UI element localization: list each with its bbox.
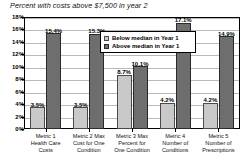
bar-value-label: 8.7% — [117, 69, 131, 75]
category-label-line: Metric 3 Max — [111, 133, 152, 140]
bar-value-label: 10.1% — [131, 61, 148, 67]
x-axis-tick-mark — [89, 129, 90, 132]
bar-above-median: 15.4% — [46, 33, 61, 129]
x-axis-category-labels: Metric 1Health CareCostsMetric 2 MaxCost… — [24, 133, 240, 155]
bar-value-label: 17.1% — [175, 17, 192, 23]
category-label-line: Number of — [155, 140, 196, 147]
bar-value-label: 3.5% — [74, 102, 88, 108]
bar-above-median: 14.9% — [219, 36, 234, 129]
bar-value-label: 4.2% — [160, 97, 174, 103]
category-label-line: Metric 5 — [198, 133, 239, 140]
bar-below-median: 3.5% — [30, 107, 45, 129]
bar-value-label: 4.2% — [204, 97, 218, 103]
bar-below-median: 4.2% — [160, 103, 175, 129]
x-axis-tick-mark — [218, 129, 219, 132]
legend-item-below: Below median in Year 1 — [104, 34, 192, 42]
legend-item-above: Above median in Year 1 — [104, 42, 192, 50]
x-axis-category-label: Metric 2 MaxCost for OneCondition — [67, 133, 110, 155]
bar-below-median: 3.5% — [73, 107, 88, 129]
bar-above-median: 10.1% — [133, 66, 148, 129]
legend-swatch-above-median — [104, 44, 109, 49]
bar-value-label: 15.4% — [45, 28, 62, 34]
chart-title: Percent with costs above $7,500 in year … — [10, 1, 246, 10]
category-label-line: Percent for — [111, 140, 152, 147]
x-axis-category-label: Metric 4Number ofConditions — [154, 133, 197, 155]
bar-group: 3.5%15.4% — [24, 17, 67, 129]
x-axis-category-label: Metric 5Number ofPrescriptions — [197, 133, 240, 155]
bar-below-median: 4.2% — [203, 103, 218, 129]
x-axis-tick-mark — [175, 129, 176, 132]
category-label-line: Metric 1 — [25, 133, 66, 140]
category-label-line: One Condition — [111, 147, 152, 154]
category-label-line: Conditions — [155, 147, 196, 154]
bar-value-label: 3.5% — [31, 102, 45, 108]
x-axis-category-label: Metric 3 MaxPercent forOne Condition — [110, 133, 153, 155]
category-label-line: Prescriptions — [198, 147, 239, 154]
legend-swatch-below-median — [104, 36, 109, 41]
y-axis-tick-mark — [21, 129, 24, 130]
category-label-line: Health Care — [25, 140, 66, 147]
bar-group: 4.2%14.9% — [197, 17, 240, 129]
category-label-line: Costs — [25, 147, 66, 154]
legend-label-above-median: Above median in Year 1 — [112, 43, 179, 49]
chart-container: Percent with costs above $7,500 in year … — [0, 0, 248, 166]
category-label-line: Cost for One — [68, 140, 109, 147]
x-axis-category-label: Metric 1Health CareCosts — [24, 133, 67, 155]
legend-label-below-median: Below median in Year 1 — [112, 35, 179, 41]
category-label-line: Condition — [68, 147, 109, 154]
bar-below-median: 8.7% — [117, 75, 132, 129]
x-axis-tick-mark — [46, 129, 47, 132]
bar-value-label: 14.9% — [218, 31, 235, 37]
category-label-line: Number of — [198, 140, 239, 147]
y-axis: 18%16%14%12%10%8%6%4%2%0% — [0, 17, 24, 129]
x-axis-tick-mark — [132, 129, 133, 132]
category-label-line: Metric 2 Max — [68, 133, 109, 140]
category-label-line: Metric 4 — [155, 133, 196, 140]
chart-legend: Below median in Year 1 Above median in Y… — [100, 31, 196, 53]
